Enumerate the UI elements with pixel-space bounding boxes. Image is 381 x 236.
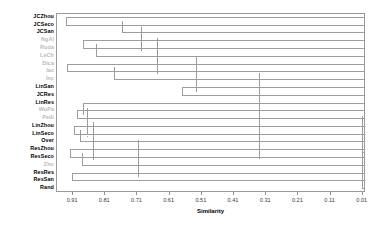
dendrogram-figure: JCZhouJCSecoJCSanNgAlRudaLeChDicaIacIncL… [0, 0, 381, 236]
leaf-label: Inc [0, 76, 54, 81]
plot-frame [56, 13, 365, 192]
x-axis-tick-label: 0.51 [189, 197, 213, 203]
leaf-label: JCRes [0, 92, 54, 97]
x-axis-tick-label: 0.31 [253, 197, 277, 203]
leaf-label: ResRes [0, 170, 54, 175]
x-axis-tick [265, 192, 266, 195]
leaf-label: LeCh [0, 53, 54, 58]
leaf-label: LinSan [0, 84, 54, 89]
leaf-label: NgAl [0, 38, 54, 43]
x-axis-tick [136, 192, 137, 195]
leaf-label: ResZhou [0, 146, 54, 151]
x-axis-tick-label: 0.71 [124, 197, 148, 203]
x-axis-tick-label: 0.21 [285, 197, 309, 203]
leaf-label: LinSeco [0, 131, 54, 136]
x-axis-tick [233, 192, 234, 195]
leaf-label: Rand [0, 185, 54, 190]
leaf-label-column: JCZhouJCSecoJCSanNgAlRudaLeChDicaIacIncL… [0, 13, 54, 192]
leaf-label: ResSeco [0, 154, 54, 159]
x-axis-tick [330, 192, 331, 195]
leaf-label: Zho [0, 162, 54, 167]
leaf-label: ResSan [0, 178, 54, 183]
x-axis-tick-label: 0.61 [157, 197, 181, 203]
leaf-label: LinRes [0, 100, 54, 105]
x-axis-tick [201, 192, 202, 195]
leaf-label: JCSan [0, 30, 54, 35]
leaf-label: Pedi [0, 115, 54, 120]
leaf-label: JCZhou [0, 14, 54, 19]
x-axis-tick [297, 192, 298, 195]
x-axis-tick-label: 0.91 [60, 197, 84, 203]
x-axis-tick [169, 192, 170, 195]
leaf-label: Ruda [0, 45, 54, 50]
leaf-label: WuPa [0, 108, 54, 113]
leaf-label: Dica [0, 61, 54, 66]
x-axis-tick [104, 192, 105, 195]
x-axis-title: Similarity [56, 208, 365, 214]
x-axis-tick [72, 192, 73, 195]
leaf-label: JCSeco [0, 22, 54, 27]
x-axis-tick [362, 192, 363, 195]
leaf-label: LinZhou [0, 123, 54, 128]
leaf-label: Iac [0, 69, 54, 74]
x-axis-tick-label: 0.81 [92, 197, 116, 203]
x-axis: Similarity 0.910.810.710.610.510.410.310… [0, 192, 381, 236]
x-axis-tick-label: 0.41 [221, 197, 245, 203]
leaf-label: Over [0, 139, 54, 144]
x-axis-tick-label: 0.01 [350, 197, 374, 203]
x-axis-tick-label: 0.11 [318, 197, 342, 203]
